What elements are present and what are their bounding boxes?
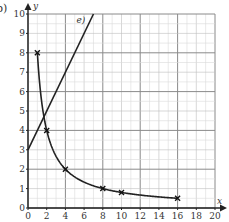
y-tick-label: 10 [14,9,26,19]
x-tick-label: 2 [44,211,50,221]
x-tick-label: 4 [63,211,69,221]
curve [37,53,177,199]
axes: yx [25,1,228,212]
y-tick-label: 6 [19,87,25,97]
x-axis-label: x [217,196,222,206]
x-tick-label: 20 [209,211,221,221]
x-tick-label: 18 [191,211,203,221]
y-axis-arrow-icon [25,3,32,10]
y-axis-label: y [32,1,39,11]
y-tick-label: 5 [19,106,25,116]
plot-series: e) [28,14,180,201]
x-tick-label: 14 [153,211,165,221]
line-label: e) [76,15,85,25]
y-tick-label: 4 [19,125,25,135]
y-tick-label: 2 [19,164,25,174]
x-tick-label: 8 [100,211,106,221]
y-tick-label: 0 [19,203,25,213]
x-tick-label: 10 [116,211,128,221]
y-tick-label: 1 [19,184,25,194]
question-label: b) [0,2,7,15]
graph: b) yx 02468101214161820012345678910 e) [0,0,229,222]
y-tick-label: 7 [19,67,25,77]
x-tick-label: 16 [172,211,184,221]
y-tick-label: 3 [19,145,25,155]
y-tick-label: 8 [19,48,25,58]
grid [28,14,215,208]
y-tick-label: 9 [19,28,25,38]
x-tick-label: 0 [25,211,31,221]
x-tick-label: 12 [134,211,145,221]
x-tick-label: 6 [81,211,87,221]
